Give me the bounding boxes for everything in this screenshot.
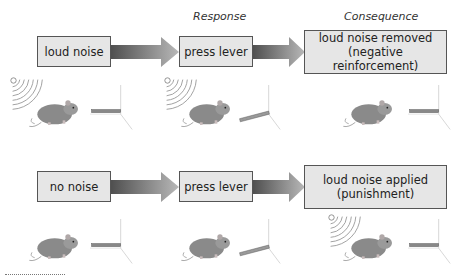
consequence-column-header: Consequence: [344, 10, 418, 23]
consequence-type-label: (negative reinforcement): [305, 45, 446, 73]
consequence-box-row1: loud noise removed (negative reinforceme…: [304, 30, 447, 74]
footnote-divider: [5, 274, 65, 275]
arrow-icon: [253, 37, 305, 67]
lever-pressed-icon: [238, 219, 284, 265]
consequence-label: loud noise removed: [319, 31, 433, 45]
response-column-header: Response: [193, 10, 246, 23]
arrow-icon: [253, 172, 305, 202]
response-label: press lever: [184, 180, 247, 194]
response-box-row1: press lever: [179, 36, 253, 67]
stimulus-label: no noise: [50, 180, 99, 194]
arrow-icon: [111, 37, 179, 67]
arrow-icon: [111, 172, 179, 202]
stimulus-box-row1: loud noise: [37, 36, 111, 67]
response-label: press lever: [184, 45, 247, 59]
consequence-box-row2: loud noise applied (punishment): [304, 165, 447, 209]
consequence-type-label: (punishment): [337, 187, 414, 201]
lever-pressed-icon: [238, 85, 284, 131]
lever-icon: [408, 85, 454, 131]
lever-icon: [408, 219, 454, 265]
stimulus-label: loud noise: [44, 45, 103, 59]
response-box-row2: press lever: [179, 171, 253, 202]
consequence-label: loud noise applied: [323, 173, 428, 187]
lever-icon: [90, 85, 136, 131]
lever-icon: [90, 219, 136, 265]
stimulus-box-row2: no noise: [37, 171, 111, 202]
